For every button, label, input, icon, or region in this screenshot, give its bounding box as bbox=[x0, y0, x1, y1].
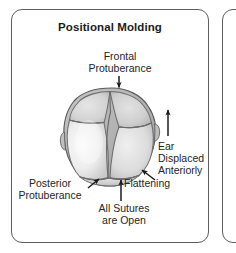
label-frontal-line1: Frontal bbox=[68, 50, 172, 62]
label-flattening: Flattening bbox=[124, 177, 190, 189]
label-frontal-protuberance: Frontal Protuberance bbox=[68, 50, 172, 74]
label-sutures-line2: are Open bbox=[84, 214, 164, 226]
adjacent-panel-partial bbox=[222, 9, 236, 243]
label-ear-line2: Displaced bbox=[158, 152, 234, 164]
label-frontal-line2: Protuberance bbox=[68, 62, 172, 74]
label-posterior-line2: Protuberance bbox=[2, 189, 98, 201]
label-sutures-line1: All Sutures bbox=[84, 202, 164, 214]
panel-title: Positional Molding bbox=[11, 21, 209, 34]
label-ear-displaced-anteriorly: Ear Displaced Anteriorly bbox=[158, 140, 234, 177]
label-posterior-line1: Posterior bbox=[2, 177, 98, 189]
label-ear-line1: Ear bbox=[158, 140, 234, 152]
figure-root: Positional Molding bbox=[0, 0, 236, 253]
label-all-sutures-are-open: All Sutures are Open bbox=[84, 202, 164, 226]
label-ear-line3: Anteriorly bbox=[158, 164, 234, 176]
label-posterior-protuberance: Posterior Protuberance bbox=[2, 177, 98, 201]
